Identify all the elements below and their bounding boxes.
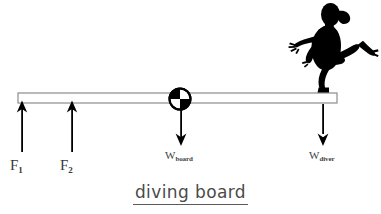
force-arrow-f1 (17, 101, 27, 153)
label-f1: F1 (10, 158, 23, 173)
figure-caption: diving board (0, 182, 381, 205)
force-arrow-wboard (176, 108, 187, 146)
label-wdiver: Wdiver (309, 150, 334, 161)
label-wboard: Wboard (165, 150, 193, 161)
force-arrow-wdiver (318, 104, 329, 146)
label-f2: F2 (60, 158, 73, 173)
label-wdiver-symbol: W (309, 149, 319, 161)
center-of-mass-icon (170, 89, 191, 110)
diving-board-diagram: F1 F2 Wboard Wdiver diving board (0, 0, 381, 214)
figure-caption-text: diving board (133, 182, 248, 205)
label-f2-subscript: 2 (68, 165, 72, 175)
label-wboard-symbol: W (165, 149, 175, 161)
label-f1-subscript: 1 (18, 165, 22, 175)
force-arrow-f2 (67, 101, 77, 153)
diver-silhouette (289, 3, 379, 93)
label-wdiver-subscript: diver (319, 155, 334, 163)
label-wboard-subscript: board (175, 155, 192, 163)
